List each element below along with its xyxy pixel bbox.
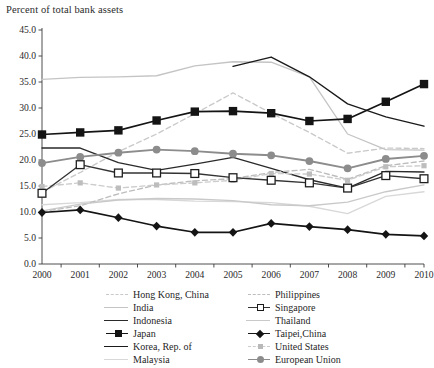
data-point-marker bbox=[38, 189, 46, 197]
legend-marker-icon bbox=[115, 330, 122, 337]
legend-item-label: United States bbox=[275, 340, 329, 353]
data-point-marker bbox=[154, 182, 159, 187]
legend-item-singapore[interactable]: Singapore bbox=[246, 301, 341, 314]
series-line bbox=[42, 185, 424, 211]
data-point-marker bbox=[420, 232, 428, 241]
legend-marker-icon bbox=[257, 356, 264, 363]
data-point-marker bbox=[305, 222, 313, 231]
data-point-marker bbox=[153, 146, 161, 154]
data-point-marker bbox=[305, 117, 313, 125]
legend-item-thailand[interactable]: Thailand bbox=[246, 314, 341, 327]
x-tick-label: 2004 bbox=[185, 269, 204, 280]
data-point-marker bbox=[420, 152, 428, 160]
legend-item-label: European Union bbox=[275, 353, 341, 366]
legend-item-label: Taipei,China bbox=[275, 327, 326, 340]
y-tick-label: 35.0 bbox=[19, 76, 36, 87]
x-tick-label: 2006 bbox=[262, 269, 281, 280]
legend-item-united-states[interactable]: United States bbox=[246, 340, 341, 353]
data-series-group bbox=[38, 57, 428, 240]
data-point-marker bbox=[229, 150, 237, 158]
data-point-marker bbox=[78, 180, 83, 185]
data-point-marker bbox=[382, 98, 390, 106]
data-point-marker bbox=[306, 157, 314, 165]
data-point-marker bbox=[191, 147, 199, 155]
legend-swatch-icon bbox=[246, 327, 272, 340]
legend-swatch-icon bbox=[104, 314, 130, 327]
x-tick-label: 2007 bbox=[300, 269, 319, 280]
legend-item-philippines[interactable]: Philippines bbox=[246, 288, 341, 301]
legend-item-india[interactable]: India bbox=[104, 301, 209, 314]
y-tick-label: 10.0 bbox=[19, 206, 36, 217]
legend-marker-icon bbox=[257, 304, 264, 311]
data-point-marker bbox=[269, 171, 274, 176]
legend-item-label: Indonesia bbox=[133, 314, 172, 327]
legend-swatch-icon bbox=[104, 288, 130, 301]
x-tick-label: 2000 bbox=[32, 269, 51, 280]
data-point-marker bbox=[382, 172, 390, 180]
data-point-marker bbox=[38, 130, 46, 138]
data-point-marker bbox=[382, 230, 390, 239]
data-point-marker bbox=[306, 179, 314, 187]
y-tick-label: 40.0 bbox=[19, 50, 36, 61]
data-point-marker bbox=[38, 159, 46, 167]
y-axis: 0.05.010.015.020.025.030.035.040.045.0 bbox=[19, 24, 42, 269]
y-tick-label: 20.0 bbox=[19, 154, 36, 165]
data-point-marker bbox=[76, 128, 84, 136]
data-point-marker bbox=[267, 109, 275, 117]
legend-item-malaysia[interactable]: Malaysia bbox=[104, 353, 209, 366]
legend-column-left: Hong Kong, ChinaIndiaIndonesiaJapanKorea… bbox=[104, 288, 209, 366]
legend-item-hong-kong-china[interactable]: Hong Kong, China bbox=[104, 288, 209, 301]
legend-swatch-icon bbox=[104, 301, 130, 314]
series-japan bbox=[38, 80, 428, 139]
data-point-marker bbox=[115, 149, 123, 157]
legend-item-japan[interactable]: Japan bbox=[104, 327, 209, 340]
data-point-marker bbox=[114, 213, 122, 222]
data-point-marker bbox=[420, 175, 428, 183]
series-line bbox=[42, 62, 424, 150]
data-point-marker bbox=[343, 115, 351, 123]
legend-item-label: Japan bbox=[133, 327, 156, 340]
legend-item-european-union[interactable]: European Union bbox=[246, 353, 341, 366]
legend-swatch-icon bbox=[246, 301, 272, 314]
legend-item-indonesia[interactable]: Indonesia bbox=[104, 314, 209, 327]
legend-item-label: Malaysia bbox=[133, 353, 170, 366]
data-point-marker bbox=[267, 176, 275, 184]
legend-item-label: Thailand bbox=[275, 314, 311, 327]
chart-legend: Hong Kong, ChinaIndiaIndonesiaJapanKorea… bbox=[104, 288, 424, 366]
data-point-marker bbox=[307, 171, 312, 176]
legend-swatch-icon bbox=[246, 314, 272, 327]
data-point-marker bbox=[76, 153, 84, 161]
x-tick-label: 2001 bbox=[71, 269, 90, 280]
x-tick-label: 2003 bbox=[147, 269, 166, 280]
data-point-marker bbox=[115, 169, 123, 177]
x-tick-label: 2010 bbox=[414, 269, 433, 280]
legend-item-label: Singapore bbox=[275, 301, 316, 314]
data-point-marker bbox=[191, 228, 199, 237]
x-tick-label: 2008 bbox=[338, 269, 357, 280]
data-point-marker bbox=[229, 174, 237, 182]
series-korea-rep-of bbox=[233, 57, 424, 126]
data-point-marker bbox=[153, 169, 161, 177]
data-point-marker bbox=[191, 170, 199, 178]
legend-item-korea-rep-of[interactable]: Korea, Rep. of bbox=[104, 340, 209, 353]
legend-swatch-icon bbox=[246, 288, 272, 301]
data-point-marker bbox=[116, 185, 121, 190]
legend-item-label: India bbox=[133, 301, 154, 314]
data-point-marker bbox=[76, 161, 84, 169]
data-point-marker bbox=[344, 184, 352, 192]
data-point-marker bbox=[191, 107, 199, 115]
data-point-marker bbox=[114, 126, 122, 134]
data-point-marker bbox=[192, 180, 197, 185]
data-point-marker bbox=[421, 163, 426, 168]
data-point-marker bbox=[39, 184, 44, 189]
legend-column-right: PhilippinesSingaporeThailandTaipei,China… bbox=[246, 288, 341, 366]
legend-swatch-icon bbox=[104, 327, 130, 340]
series-line bbox=[233, 57, 424, 126]
legend-item-taipei-china[interactable]: Taipei,China bbox=[246, 327, 341, 340]
data-point-marker bbox=[344, 164, 352, 172]
series-india bbox=[42, 62, 424, 150]
x-tick-label: 2009 bbox=[376, 269, 395, 280]
data-point-marker bbox=[229, 228, 237, 237]
y-tick-label: 5.0 bbox=[24, 232, 36, 243]
y-tick-label: 30.0 bbox=[19, 102, 36, 113]
